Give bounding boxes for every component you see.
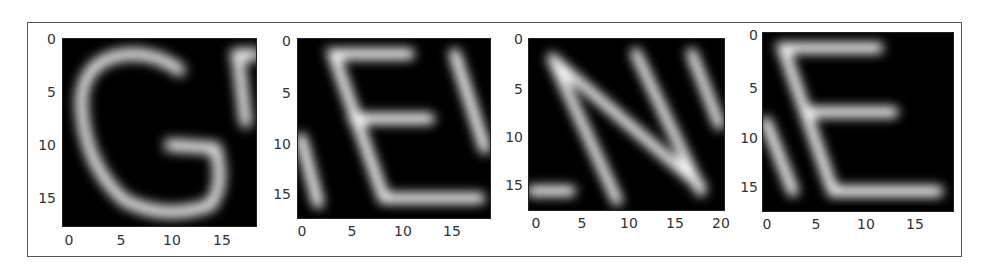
- x-tick: 5: [801, 217, 831, 231]
- x-tick: 15: [900, 217, 930, 231]
- letter-e-image: [763, 33, 953, 211]
- y-tick: 0: [730, 28, 758, 42]
- x-tick: 15: [437, 224, 467, 238]
- y-tick: 15: [28, 191, 56, 205]
- y-tick: 5: [495, 82, 523, 96]
- x-tick: 10: [157, 233, 187, 247]
- x-tick: 10: [851, 217, 881, 231]
- panel-e-2: [762, 32, 954, 212]
- y-tick: 0: [495, 32, 523, 46]
- letter-n-image: [529, 39, 724, 210]
- x-tick: 0: [752, 217, 782, 231]
- y-tick: 10: [495, 130, 523, 144]
- y-tick: 0: [263, 34, 291, 48]
- x-tick: 5: [337, 224, 367, 238]
- x-tick: 15: [207, 233, 237, 247]
- x-tick: 5: [106, 233, 136, 247]
- y-tick: 5: [730, 81, 758, 95]
- x-tick: 10: [388, 224, 418, 238]
- panel-g: [62, 38, 257, 227]
- y-tick: 15: [495, 178, 523, 192]
- panel-n: [528, 38, 725, 211]
- panel-e-1: [297, 38, 491, 219]
- y-tick: 15: [263, 187, 291, 201]
- y-tick: 10: [730, 131, 758, 145]
- y-tick: 5: [28, 85, 56, 99]
- y-tick: 0: [28, 32, 56, 46]
- x-tick: 0: [521, 216, 551, 230]
- x-tick: 0: [287, 224, 317, 238]
- y-tick: 10: [263, 137, 291, 151]
- x-tick: 0: [54, 233, 84, 247]
- y-tick: 10: [28, 138, 56, 152]
- x-tick: 5: [567, 216, 597, 230]
- x-tick: 20: [706, 216, 736, 230]
- x-tick: 10: [614, 216, 644, 230]
- letter-g-image: [63, 39, 256, 226]
- y-tick: 15: [730, 180, 758, 194]
- y-tick: 5: [263, 86, 291, 100]
- x-tick: 15: [660, 216, 690, 230]
- letter-e-image: [298, 39, 490, 218]
